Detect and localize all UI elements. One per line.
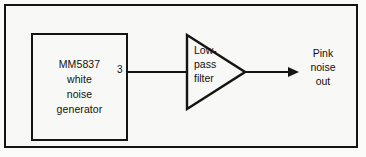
arrow-right-icon xyxy=(288,67,299,77)
pin-number-label: 3 xyxy=(117,64,123,76)
block-label-line: noise xyxy=(67,87,93,102)
filter-label-line: Low- xyxy=(194,43,234,57)
output-label-line: out xyxy=(301,74,345,88)
figure-border: MM5837 white noise generator 3 Low- pass… xyxy=(4,4,358,148)
filter-label-line: pass xyxy=(194,57,234,71)
wire-generator-to-filter xyxy=(127,71,188,73)
block-label-line: MM5837 xyxy=(59,57,100,72)
block-diagram-figure: MM5837 white noise generator 3 Low- pass… xyxy=(0,0,366,157)
output-label: Pink noise out xyxy=(301,46,345,88)
wire-filter-to-output xyxy=(246,71,290,73)
block-label-line: generator xyxy=(57,102,103,117)
output-label-line: noise xyxy=(301,60,345,74)
filter-label: Low- pass filter xyxy=(194,43,234,85)
output-label-line: Pink xyxy=(301,46,345,60)
block-noise-generator: MM5837 white noise generator xyxy=(31,33,128,141)
filter-label-line: filter xyxy=(194,71,234,85)
block-label-line: white xyxy=(67,72,92,87)
